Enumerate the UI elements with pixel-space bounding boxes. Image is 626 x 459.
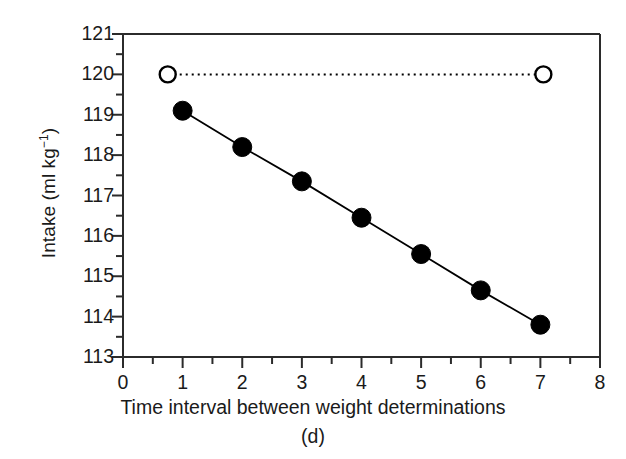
x-axis-title: Time interval between weight determinati… (0, 396, 626, 419)
x-tick-label: 6 (461, 373, 501, 393)
x-tick-label: 1 (163, 373, 203, 393)
x-tick-label: 8 (580, 373, 620, 393)
x-axis-unit-label: (d) (0, 425, 626, 448)
x-tick-label: 4 (342, 373, 382, 393)
x-tick-label: 0 (103, 373, 143, 393)
x-axis-tick-labels: 012345678 (0, 0, 626, 459)
x-tick-label: 3 (282, 373, 322, 393)
y-axis-title-text: Intake (ml kg (38, 148, 59, 258)
x-tick-label: 2 (222, 373, 262, 393)
figure-panel-d: 113114115116117118119120121 012345678 In… (0, 0, 626, 459)
y-axis-title-exponent: −1 (37, 134, 51, 148)
x-tick-label: 5 (401, 373, 441, 393)
y-axis-title-tail: ) (38, 128, 59, 134)
x-tick-label: 7 (520, 373, 560, 393)
y-axis-title: Intake (ml kg−1) (38, 68, 60, 318)
